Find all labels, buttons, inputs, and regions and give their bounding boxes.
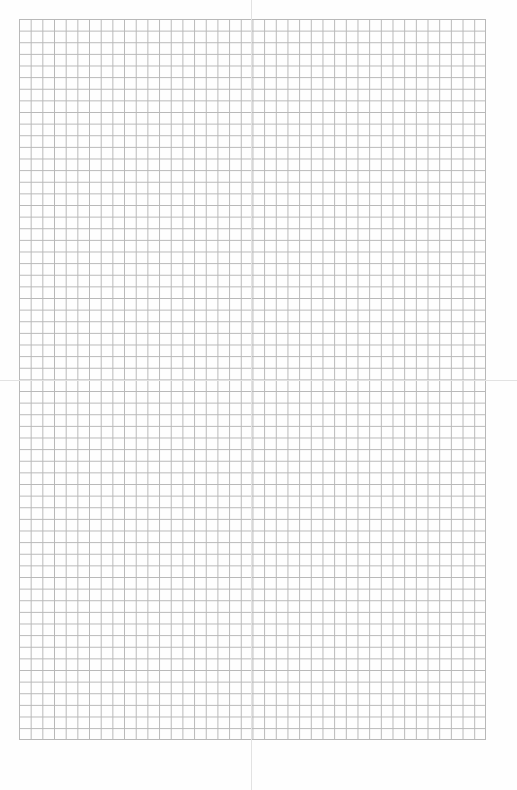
horizontal-fold-line [0, 380, 517, 381]
graph-paper-sheet [0, 0, 517, 790]
vertical-fold-line [251, 0, 252, 790]
